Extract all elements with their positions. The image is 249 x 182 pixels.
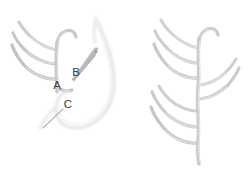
label-b: B xyxy=(72,66,80,78)
stitch-illustration: A B C xyxy=(0,0,249,182)
label-c: C xyxy=(64,98,72,110)
label-a: A xyxy=(53,79,61,91)
stitch-diagram: A B C xyxy=(0,0,249,182)
